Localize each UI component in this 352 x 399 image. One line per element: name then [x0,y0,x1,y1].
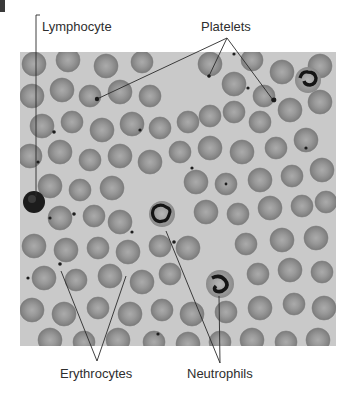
label-erythrocytes: Erythrocytes [60,367,132,380]
platelet-leader-line-3 [227,38,273,100]
erythrocyte-leader-line-1 [61,271,97,361]
platelet-leader-line-2 [209,38,227,76]
label-lymphocyte: Lymphocyte [42,20,112,33]
erythrocyte-leader-line-2 [97,276,126,361]
lymphocyte-leader-line [36,15,40,196]
label-neutrophils: Neutrophils [187,367,253,380]
platelet-leader-line-1 [97,38,227,99]
label-platelets: Platelets [201,20,251,33]
neutrophil-leader-line-1 [166,231,220,363]
neutrophil-leader-line-2 [219,296,220,363]
leader-lines [0,0,352,399]
